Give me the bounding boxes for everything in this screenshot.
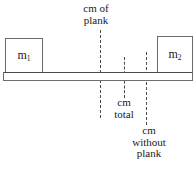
plank: [3, 72, 193, 81]
mass-label-left-symbol: m: [17, 48, 26, 62]
mass-label-right: m2: [158, 48, 192, 62]
label-cm-of-plank-line1: cm of: [56, 3, 136, 15]
mass-label-right-subscript: 2: [178, 53, 182, 62]
label-cm-total-line2: total: [99, 109, 149, 121]
label-cm-total: cm total: [99, 97, 149, 120]
mass-label-left-subscript: 1: [27, 54, 31, 63]
label-cm-without-plank-line3: plank: [106, 148, 192, 160]
label-cm-total-line1: cm: [99, 97, 149, 109]
physics-diagram: cm of plank m1 m2 cm total cm without pl…: [0, 0, 196, 174]
label-cm-without-plank: cm without plank: [106, 125, 192, 160]
label-cm-of-plank: cm of plank: [56, 3, 136, 26]
mass-block-right: m2: [157, 36, 193, 73]
label-cm-without-plank-line1: cm: [106, 125, 192, 137]
label-cm-of-plank-line2: plank: [56, 15, 136, 27]
mass-label-left: m1: [6, 49, 42, 63]
mass-label-right-symbol: m: [168, 47, 177, 61]
mass-block-left: m1: [5, 38, 43, 73]
